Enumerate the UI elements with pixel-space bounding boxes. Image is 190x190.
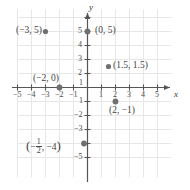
point-label-neg3-5: (−3, 5) <box>16 26 42 36</box>
y-axis <box>85 13 90 182</box>
y-tick-label-3: 3 <box>78 55 82 63</box>
x-tick-label-2: 2 <box>113 91 117 99</box>
x-tick-label-3: 3 <box>127 91 131 99</box>
x-tick-label-neg4: −4 <box>27 91 36 99</box>
y-tick-label-neg5: −5 <box>74 153 83 161</box>
point-label-neghalf-neg4: (−12, −4) <box>26 138 61 155</box>
fraction-label-rest: , −4 <box>42 142 57 152</box>
y-tick-label-1: 1 <box>79 79 83 87</box>
x-tick-label-neg3: −3 <box>41 91 50 99</box>
point-0-5 <box>85 29 91 35</box>
x-tick-label-5: 5 <box>155 91 159 99</box>
y-tick-label-neg3: −3 <box>74 125 83 133</box>
x-tick-label-neg5: −5 <box>13 91 22 99</box>
y-tick-label-2: 2 <box>78 69 82 77</box>
coordinate-plane-figure: (−3, 5) (0, 5) (1.5, 1.5) (−2, 0) (2, −1… <box>0 0 190 190</box>
y-axis-label: y <box>89 3 93 12</box>
y-tick-label-4: 4 <box>78 41 82 49</box>
y-tick-label-neg2: −2 <box>74 111 83 119</box>
x-axis-label: x <box>174 90 178 99</box>
point-label-1.5-1.5: (1.5, 1.5) <box>113 61 148 71</box>
point-1.5-1.5 <box>106 64 111 69</box>
x-axis <box>12 85 170 90</box>
point-2-neg1 <box>113 99 119 105</box>
x-tick-label-1: 1 <box>99 91 103 99</box>
y-tick-label-5: 5 <box>78 27 82 35</box>
point-label-0-5: (0, 5) <box>95 26 116 36</box>
point-neghalf-neg4 <box>81 141 87 147</box>
point-label-2-neg1: (2, −1) <box>109 106 135 116</box>
y-tick-label-neg1: 1 <box>79 97 83 105</box>
point-label-neg2-0: (−2, 0) <box>33 74 59 84</box>
x-tick-label-4: 4 <box>141 91 145 99</box>
x-tick-label-neg2: −2 <box>55 91 64 99</box>
point-neg3-5 <box>43 29 48 34</box>
x-tick-label-neg1: −1 <box>69 91 78 99</box>
paren-close: ) <box>57 138 61 153</box>
